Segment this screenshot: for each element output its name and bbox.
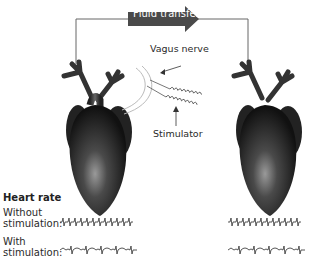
row-label-line1: Without xyxy=(3,207,62,218)
ecg-without-right xyxy=(228,218,301,226)
row-label-line2: stimulation: xyxy=(3,247,62,258)
ecg-with-right xyxy=(228,246,305,254)
stimulator-label: Stimulator xyxy=(153,128,203,139)
without-stimulation-label: Without stimulation: xyxy=(3,207,62,229)
stimulator xyxy=(166,87,202,126)
ecg-without-left xyxy=(60,218,133,226)
left-heart xyxy=(64,62,132,216)
vagus-nerve xyxy=(122,66,181,114)
with-stimulation-label: With stimulation: xyxy=(3,236,62,258)
row-label-line1: With xyxy=(3,236,62,247)
heart-rate-title: Heart rate xyxy=(3,192,61,203)
row-label-line2: stimulation: xyxy=(3,218,62,229)
fluid-transfer-label: Fluid transfer xyxy=(133,8,200,19)
ecg-with-left xyxy=(60,246,137,254)
vagus-nerve-label: Vagus nerve xyxy=(150,43,209,54)
right-heart xyxy=(234,62,302,216)
